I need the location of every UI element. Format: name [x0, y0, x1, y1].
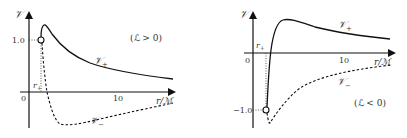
left-horizon-marker [38, 37, 44, 43]
right-panel: 𝒱 −1.0 0 10 r/ℳ r+ 𝒱+ 𝒱− (ℒ < 0) [233, 8, 394, 128]
left-curve-v-minus-label: 𝒱− [90, 115, 104, 129]
right-curve-v-plus [267, 19, 390, 107]
right-y-axis-label: 𝒱 [239, 8, 252, 21]
left-x-axis-label: r/ℳ [156, 96, 174, 106]
left-tick-x-zero: 0 [21, 94, 26, 103]
left-curve-v-minus [42, 43, 173, 125]
right-curve-v-plus-label: 𝒱+ [338, 19, 352, 33]
right-curve-v-minus [267, 65, 391, 123]
right-condition-label: (ℒ < 0) [354, 98, 386, 108]
figure: 𝒱 1.0 0 10 r/ℳ r+ 𝒱+ 𝒱− (ℒ > 0) 𝒱 −1.0 0… [0, 0, 407, 138]
left-y-axis-label: 𝒱 [14, 8, 27, 21]
right-tick-x-zero: 0 [245, 56, 250, 65]
left-panel: 𝒱 1.0 0 10 r/ℳ r+ 𝒱+ 𝒱− (ℒ > 0) [12, 8, 174, 129]
right-tick-y: −1.0 [233, 106, 252, 115]
left-horizon-label: r+ [33, 81, 42, 91]
right-horizon-marker [263, 107, 269, 113]
left-tick-x-ten: 10 [113, 94, 123, 103]
left-condition-label: (ℒ > 0) [130, 33, 162, 43]
right-horizon-label: r+ [256, 41, 265, 51]
right-tick-x-ten: 10 [339, 56, 349, 65]
right-x-axis-label: r/ℳ [374, 57, 392, 67]
left-tick-y: 1.0 [12, 36, 25, 45]
right-curve-v-minus-label: 𝒱− [337, 76, 351, 90]
